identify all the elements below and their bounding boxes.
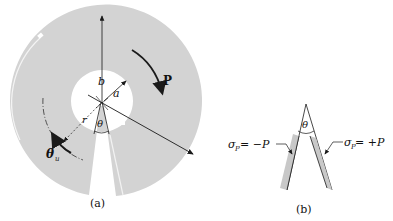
split-ring-disk	[10, 5, 202, 196]
leader-right	[325, 142, 343, 154]
label-sigma-left-value: = −P	[240, 138, 270, 151]
figure-a: b a θ r θ u P (a)	[10, 5, 202, 210]
label-a: a	[113, 87, 120, 100]
left-face-strip	[280, 134, 299, 190]
right-face-edge	[310, 136, 327, 188]
caption-b: (b)	[296, 203, 312, 216]
label-p: P	[163, 74, 172, 88]
label-r: r	[82, 114, 88, 125]
label-theta-u-sub: u	[55, 155, 60, 163]
theta-arc-b	[298, 131, 314, 134]
figure-b: θ σ P = −P σ P = +P (b)	[228, 104, 385, 216]
inner-notch	[121, 122, 125, 125]
figure-canvas: b a θ r θ u P (a) θ σ P = −P σ P	[0, 0, 393, 221]
label-b: b	[98, 75, 105, 88]
caption-a: (a)	[90, 197, 105, 210]
label-theta-b: θ	[302, 119, 308, 130]
label-theta: θ	[97, 118, 103, 129]
slot-line-right	[306, 104, 332, 190]
right-face-strip	[310, 136, 332, 190]
label-theta-u: θ	[46, 147, 54, 161]
label-sigma-right-value: = +P	[355, 136, 385, 149]
